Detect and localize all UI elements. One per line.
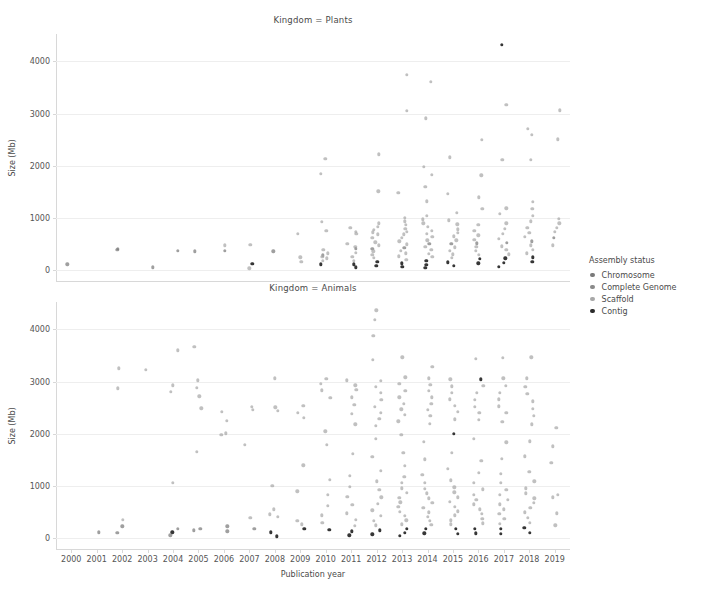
data-point — [473, 398, 476, 401]
data-point — [478, 257, 481, 260]
data-point — [429, 383, 432, 386]
data-point — [296, 411, 299, 414]
data-point — [121, 518, 124, 521]
data-point — [353, 524, 356, 527]
y-axis-label-plants: Size (Mb) — [8, 139, 17, 176]
data-point — [405, 109, 408, 112]
y-tick-mark-1000 — [53, 218, 56, 219]
data-point — [276, 515, 279, 518]
gridline-y-1000 — [56, 486, 570, 487]
data-point — [220, 433, 223, 436]
data-point — [405, 527, 408, 530]
data-point — [531, 260, 534, 263]
data-point — [351, 452, 354, 455]
data-point — [296, 490, 299, 493]
x-axis-spine — [56, 281, 570, 282]
data-point — [375, 309, 378, 312]
data-point — [397, 255, 400, 258]
legend-title: Assembly status — [589, 256, 701, 265]
gridline-y-4000 — [56, 329, 570, 330]
x-tick-label-2002: 2002 — [112, 555, 132, 564]
data-point — [427, 496, 430, 499]
data-point — [354, 247, 357, 250]
data-point — [473, 405, 476, 408]
x-tick-mark-2019 — [555, 550, 556, 553]
legend-entries: ChromosomeComplete GenomeScaffoldContig — [589, 269, 701, 317]
data-point — [531, 256, 534, 259]
data-point — [346, 242, 349, 245]
data-point — [481, 522, 484, 525]
data-point — [431, 365, 434, 368]
data-point — [502, 517, 505, 520]
data-point — [121, 525, 124, 528]
data-point — [401, 265, 404, 268]
data-point — [350, 529, 353, 532]
data-point — [116, 387, 119, 390]
x-tick-label-2008: 2008 — [265, 555, 285, 564]
x-tick-mark-2009 — [300, 550, 301, 553]
x-tick-label-2006: 2006 — [214, 555, 234, 564]
x-tick-label-2012: 2012 — [366, 555, 386, 564]
data-point — [269, 531, 272, 534]
data-point — [529, 158, 532, 161]
data-point — [427, 377, 430, 380]
legend-item-chromosome[interactable]: Chromosome — [589, 269, 701, 281]
data-point — [446, 467, 449, 470]
data-point — [354, 251, 357, 254]
data-point — [456, 231, 459, 234]
data-point — [448, 156, 451, 159]
data-point — [429, 414, 432, 417]
data-point — [427, 389, 430, 392]
data-point — [450, 256, 453, 259]
data-point — [376, 225, 379, 228]
data-point — [398, 510, 401, 513]
data-point — [529, 220, 532, 223]
data-point — [302, 464, 305, 467]
data-point — [430, 173, 433, 176]
data-point — [348, 485, 351, 488]
data-point — [506, 498, 509, 501]
data-point — [477, 253, 480, 256]
legend-label: Complete Genome — [602, 283, 677, 292]
data-point — [272, 507, 275, 510]
data-point — [507, 253, 510, 256]
data-point — [531, 214, 534, 217]
data-point — [399, 501, 402, 504]
x-tick-label-2017: 2017 — [494, 555, 514, 564]
data-point — [422, 222, 425, 225]
data-point — [501, 158, 504, 161]
data-point — [116, 531, 119, 534]
data-point — [353, 383, 356, 386]
y-axis-label-animals: Size (Mb) — [8, 407, 17, 444]
legend-item-scaffold[interactable]: Scaffold — [589, 293, 701, 305]
x-tick-mark-2011 — [351, 550, 352, 553]
data-point — [479, 459, 482, 462]
data-point — [371, 231, 374, 234]
data-point — [497, 265, 500, 268]
data-point — [327, 528, 330, 531]
data-point — [168, 534, 171, 537]
data-point — [268, 513, 271, 516]
data-point — [498, 493, 501, 496]
data-point — [523, 455, 526, 458]
legend-item-complete-genome[interactable]: Complete Genome — [589, 281, 701, 293]
data-point — [398, 534, 401, 537]
data-point — [531, 407, 534, 410]
legend-item-contig[interactable]: Contig — [589, 305, 701, 317]
x-tick-mark-2014 — [428, 550, 429, 553]
data-point — [455, 211, 458, 214]
data-point — [400, 408, 403, 411]
gridline-y-1000 — [56, 218, 570, 219]
data-point — [430, 229, 433, 232]
data-point — [558, 222, 561, 225]
data-point — [472, 493, 475, 496]
data-point — [320, 220, 323, 223]
data-point — [198, 394, 201, 397]
legend-label: Scaffold — [602, 295, 634, 304]
data-point — [348, 474, 351, 477]
y-tick-mark-2000 — [53, 166, 56, 167]
gridline-y-2000 — [56, 434, 570, 435]
data-point — [398, 396, 401, 399]
data-point — [474, 532, 477, 535]
data-point — [403, 413, 406, 416]
